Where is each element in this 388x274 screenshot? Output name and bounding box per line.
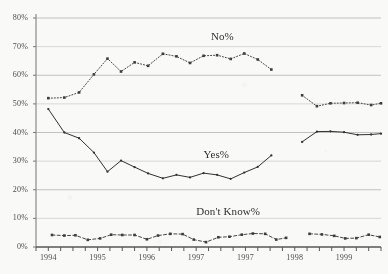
chart-page: 0%10%20%30%40%50%60%70%80% 1994199519961…: [0, 0, 388, 274]
y-tick-label: 40%: [2, 128, 28, 137]
y-tick-label: 0%: [2, 242, 28, 251]
series-line-1: [302, 95, 381, 106]
x-tick-label: 1999: [324, 253, 364, 262]
series-label-dontknow: Don't Know%: [196, 205, 260, 217]
x-tick-label: 1996: [127, 253, 167, 262]
y-tick-label: 10%: [2, 213, 28, 222]
gridlines-group: [36, 18, 381, 218]
y-tick-label: 60%: [2, 70, 28, 79]
y-tick-label: 80%: [2, 13, 28, 22]
line-chart-plot: [0, 0, 388, 274]
series-line-2: [48, 109, 271, 179]
series-line-0: [48, 54, 271, 99]
y-tick-label: 70%: [2, 42, 28, 51]
series-label-no: No%: [211, 30, 234, 42]
x-tick-label: 1998: [275, 253, 315, 262]
x-tick-label: 1997: [176, 253, 216, 262]
y-tick-label: 50%: [2, 99, 28, 108]
y-tick-label: 20%: [2, 185, 28, 194]
y-tick-label: 30%: [2, 156, 28, 165]
x-tick-label: 1994: [28, 253, 68, 262]
series-label-yes: Yes%: [204, 148, 230, 160]
x-tick-label: 1997: [225, 253, 265, 262]
x-tick-label: 1995: [78, 253, 118, 262]
